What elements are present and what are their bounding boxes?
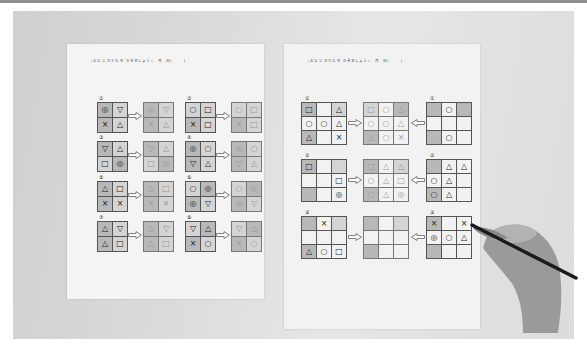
grid-cell[interactable]: ▽ [232, 157, 246, 171]
grid-cell[interactable]: □ [144, 157, 158, 171]
grid-cell [427, 245, 441, 258]
grid-cell: × [186, 118, 200, 132]
grid-cell[interactable]: ◎ [247, 182, 261, 196]
grid-cell[interactable]: ◎ [232, 142, 246, 156]
grid-cell[interactable]: ○ [247, 237, 261, 251]
grid-cell [302, 174, 316, 187]
exercise-number: ② [430, 153, 434, 158]
grid-cell[interactable]: □ [247, 118, 261, 132]
grid-cell[interactable]: × [159, 197, 173, 211]
grid-cell [317, 131, 331, 144]
grid-cell[interactable]: ◎ [159, 157, 173, 171]
grid-cell[interactable]: ○ [379, 117, 393, 130]
grid-cell [442, 117, 456, 130]
grid-cell: × [186, 237, 200, 251]
grid-cell[interactable]: ○ [232, 103, 246, 117]
arrow-right-icon [348, 119, 362, 127]
grid-cell[interactable]: △ [379, 160, 393, 173]
grid-cell[interactable]: △ [159, 118, 173, 132]
grid-cell[interactable]: △ [247, 157, 261, 171]
grid-cell[interactable]: ▽ [159, 222, 173, 236]
shape-grid: ▽△×○ [185, 221, 216, 252]
grid-cell[interactable]: △ [144, 237, 158, 251]
shape-grid: ◎○▽△ [185, 141, 216, 172]
grid-cell[interactable]: ○ [364, 188, 378, 201]
grid-cell[interactable]: △ [159, 142, 173, 156]
grid-cell: △ [113, 118, 127, 132]
grid-cell: ▽ [186, 157, 200, 171]
grid-cell[interactable]: × [232, 118, 246, 132]
grid-cell[interactable]: △ [379, 174, 393, 187]
grid-cell[interactable]: □ [394, 174, 408, 187]
grid-cell[interactable]: × [232, 237, 246, 251]
worksheet-header: ☆おなじ かたち を かきましょう☆ 月 日( ) [90, 58, 185, 63]
grid-cell[interactable]: △ [144, 222, 158, 236]
grid-cell[interactable] [364, 245, 378, 258]
grid-cell: △ [98, 237, 112, 251]
grid-cell[interactable]: × [144, 118, 158, 132]
arrow-right-icon [348, 176, 362, 184]
grid-cell[interactable]: ▽ [144, 142, 158, 156]
grid-cell[interactable]: △ [364, 131, 378, 144]
grid-cell [302, 188, 316, 201]
exercise-number: ⑦ [99, 215, 103, 220]
grid-cell: △ [98, 222, 112, 236]
grid-cell [427, 160, 441, 173]
grid-cell [457, 188, 471, 201]
grid-cell: ○ [427, 174, 441, 187]
grid-cell[interactable]: ○ [364, 174, 378, 187]
grid-cell[interactable]: △ [379, 188, 393, 201]
grid-cell[interactable]: □ [159, 237, 173, 251]
grid-cell[interactable] [379, 217, 393, 230]
shape-grid: ○□×□ [185, 102, 216, 133]
shape-grid: ××◎○△ [426, 216, 472, 259]
grid-cell[interactable]: △ [394, 160, 408, 173]
grid-cell[interactable]: ▽ [159, 103, 173, 117]
grid-cell[interactable]: △ [144, 182, 158, 196]
grid-cell[interactable]: × [144, 197, 158, 211]
copy-grid: ▽△□◎ [143, 141, 174, 172]
shape-grid: ◎▽×△ [97, 102, 128, 133]
grid-cell[interactable]: △ [247, 222, 261, 236]
grid-cell: × [427, 217, 441, 230]
grid-cell[interactable] [379, 245, 393, 258]
shape-grid: △△○△○△ [426, 159, 472, 202]
grid-cell: × [98, 118, 112, 132]
grid-cell[interactable]: ▽ [232, 222, 246, 236]
grid-cell[interactable]: □ [364, 103, 378, 116]
grid-cell[interactable]: ◎ [394, 188, 408, 201]
shape-grid: △□×× [97, 181, 128, 212]
grid-cell[interactable] [394, 245, 408, 258]
grid-cell[interactable]: ○ [247, 142, 261, 156]
grid-cell [317, 231, 331, 244]
grid-cell[interactable]: △ [394, 117, 408, 130]
arrow-left-icon [411, 119, 425, 127]
grid-cell[interactable]: ○ [379, 103, 393, 116]
grid-cell [457, 103, 471, 116]
grid-cell[interactable]: △ [394, 103, 408, 116]
grid-cell[interactable] [394, 217, 408, 230]
grid-cell: △ [457, 160, 471, 173]
grid-cell[interactable] [394, 231, 408, 244]
grid-cell[interactable]: ○ [364, 117, 378, 130]
grid-cell[interactable]: × [394, 131, 408, 144]
copy-grid: ▽△×○ [231, 221, 262, 252]
hand-with-pencil [468, 213, 578, 333]
grid-cell[interactable] [364, 231, 378, 244]
grid-cell[interactable]: ▽ [247, 197, 261, 211]
grid-cell[interactable] [364, 217, 378, 230]
copy-grid: □○△○○△△○× [363, 102, 409, 145]
grid-cell[interactable]: ◎ [232, 197, 246, 211]
grid-cell[interactable]: ○ [232, 182, 246, 196]
copy-grid: △▽△□ [143, 221, 174, 252]
shape-grid: ▽△□◎ [97, 141, 128, 172]
arrow-left-icon [411, 233, 425, 241]
grid-cell[interactable] [379, 231, 393, 244]
grid-cell: ◎ [332, 188, 346, 201]
grid-cell[interactable]: ◎ [144, 103, 158, 117]
arrow-right-icon [348, 233, 362, 241]
grid-cell[interactable]: □ [159, 182, 173, 196]
grid-cell[interactable]: □ [364, 160, 378, 173]
grid-cell[interactable]: ○ [379, 131, 393, 144]
grid-cell[interactable]: □ [247, 103, 261, 117]
